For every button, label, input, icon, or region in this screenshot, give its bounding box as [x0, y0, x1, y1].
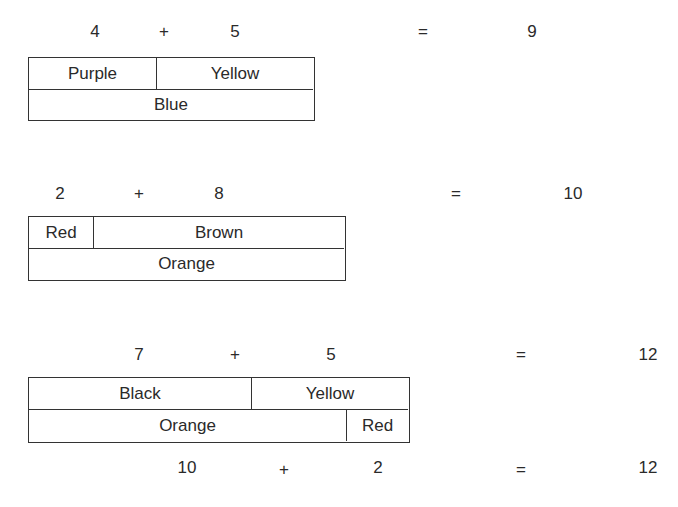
addend-a-2: 10: [178, 458, 197, 478]
addend-b: 5: [230, 22, 239, 42]
rod-orange: Orange: [29, 409, 346, 441]
rod-yellow: Yellow: [251, 378, 408, 409]
sum-result: 9: [527, 22, 536, 42]
equals-sign: =: [418, 22, 428, 42]
cuisenaire-bar: Purple Yellow Blue: [28, 57, 315, 121]
rod-black: Black: [29, 378, 251, 409]
addend-a: 7: [134, 345, 143, 365]
equals-sign: =: [451, 184, 461, 204]
addend-b: 5: [326, 345, 335, 365]
sum-result: 12: [639, 345, 658, 365]
addend-a: 2: [55, 184, 64, 204]
addend-b: 8: [214, 184, 223, 204]
rod-blue: Blue: [29, 89, 313, 119]
rod-orange: Orange: [29, 248, 344, 279]
plus-sign: +: [159, 22, 169, 42]
rod-red: Red: [346, 409, 408, 441]
rod-red: Red: [29, 217, 93, 248]
plus-sign-2: +: [279, 460, 289, 480]
rod-brown: Brown: [93, 217, 344, 248]
addend-b-2: 2: [373, 458, 382, 478]
plus-sign: +: [134, 184, 144, 204]
rod-yellow: Yellow: [156, 58, 313, 89]
plus-sign: +: [230, 345, 240, 365]
sum-result-2: 12: [639, 458, 658, 478]
equals-sign: =: [516, 345, 526, 365]
sum-result: 10: [564, 184, 583, 204]
rod-purple: Purple: [29, 58, 156, 89]
addend-a: 4: [90, 22, 99, 42]
cuisenaire-bar: Black Yellow Orange Red: [28, 377, 410, 443]
cuisenaire-bar: Red Brown Orange: [28, 216, 346, 281]
equals-sign-2: =: [516, 460, 526, 480]
